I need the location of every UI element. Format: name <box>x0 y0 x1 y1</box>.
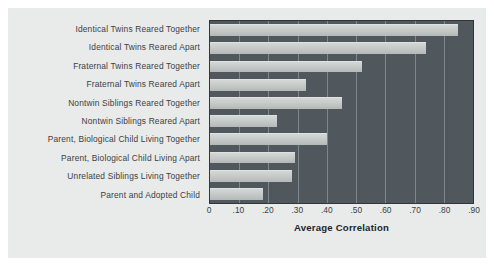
bar <box>210 115 277 127</box>
x-axis-title: Average Correlation <box>209 222 474 233</box>
bar-row <box>210 167 473 185</box>
gridline <box>473 21 474 203</box>
bar-row <box>210 130 473 148</box>
x-tick-label: .20 <box>262 206 274 214</box>
category-label: Parent and Adopted Child <box>30 186 206 204</box>
bar-row <box>210 185 473 203</box>
x-tick-label: .40 <box>321 206 333 214</box>
bar-row <box>210 76 473 94</box>
bar <box>210 152 295 164</box>
bar <box>210 170 292 182</box>
category-label: Parent, Biological Child Living Apart <box>30 149 206 167</box>
bar-row <box>210 148 473 166</box>
category-label: Identical Twins Reared Apart <box>30 38 206 56</box>
bar-row <box>210 94 473 112</box>
chart-figure: Identical Twins Reared TogetherIdentical… <box>8 8 486 258</box>
bar <box>210 79 306 91</box>
bar-series <box>210 21 473 203</box>
x-tick-label: .10 <box>233 206 245 214</box>
x-tick-label: .50 <box>350 206 362 214</box>
plot-region <box>209 20 474 204</box>
bar <box>210 97 342 109</box>
category-axis-labels: Identical Twins Reared TogetherIdentical… <box>30 20 206 204</box>
x-tick-label: .60 <box>380 206 392 214</box>
x-tick-label: .90 <box>468 206 480 214</box>
x-axis-tick-labels: 0.10.20.30.40.50.60.70.80.90 <box>209 206 474 220</box>
category-label: Nontwin Siblings Reared Apart <box>30 112 206 130</box>
category-label: Parent, Biological Child Living Together <box>30 130 206 148</box>
x-tick-label: .70 <box>409 206 421 214</box>
category-label: Fraternal Twins Reared Apart <box>30 75 206 93</box>
chart-area: Identical Twins Reared TogetherIdentical… <box>30 20 476 225</box>
category-label: Fraternal Twins Reared Together <box>30 57 206 75</box>
bar <box>210 133 327 145</box>
bar-row <box>210 21 473 39</box>
bar <box>210 24 458 36</box>
category-label: Nontwin Siblings Reared Together <box>30 94 206 112</box>
bar <box>210 188 263 200</box>
bar <box>210 61 362 73</box>
bar-row <box>210 39 473 57</box>
x-tick-label: .80 <box>439 206 451 214</box>
x-tick-label: 0 <box>207 206 212 214</box>
plot-background <box>209 20 474 204</box>
bar-row <box>210 112 473 130</box>
category-label: Identical Twins Reared Together <box>30 20 206 38</box>
x-tick-label: .30 <box>292 206 304 214</box>
category-label: Unrelated Siblings Living Together <box>30 167 206 185</box>
bar-row <box>210 57 473 75</box>
bar <box>210 42 426 54</box>
